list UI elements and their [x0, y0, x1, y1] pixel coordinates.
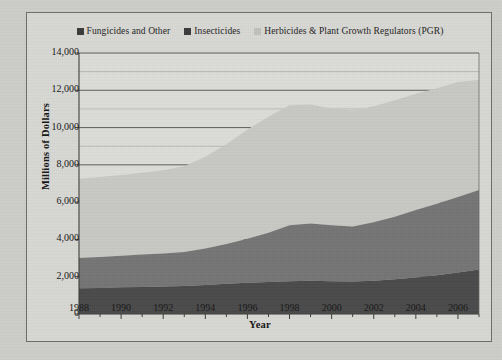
- x-axis-title: Year: [27, 319, 493, 330]
- x-tick-label: 2004: [396, 302, 436, 313]
- x-tick-label: 1998: [270, 302, 310, 313]
- x-tick-label: 1988: [59, 302, 99, 313]
- x-tick-label: 2006: [438, 302, 478, 313]
- y-tick-label: 2,000: [35, 270, 79, 281]
- y-tick-label: 10,000: [35, 121, 79, 132]
- x-tick-label: 2002: [354, 302, 394, 313]
- x-tick-label: 1992: [143, 302, 183, 313]
- y-axis-tick-labels: 02,0004,0006,0008,00010,00012,00014,000: [27, 13, 79, 343]
- x-tick-label: 1994: [185, 302, 225, 313]
- y-tick-label: 8,000: [35, 158, 79, 169]
- stacked-area-plot: [27, 13, 493, 343]
- x-tick-label: 1996: [227, 302, 267, 313]
- x-tick-label: 1990: [101, 302, 141, 313]
- x-tick-label: 2000: [312, 302, 352, 313]
- y-tick-label: 6,000: [35, 195, 79, 206]
- y-tick-label: 12,000: [35, 83, 79, 94]
- chart-page: Fungicides and Other Insecticides Herbic…: [0, 0, 502, 360]
- y-tick-label: 14,000: [35, 46, 79, 57]
- y-tick-label: 4,000: [35, 232, 79, 243]
- chart-frame: Fungicides and Other Insecticides Herbic…: [26, 12, 492, 342]
- plot-area-wrapper: Millions of Dollars Year 02,0004,0006,00…: [27, 13, 493, 343]
